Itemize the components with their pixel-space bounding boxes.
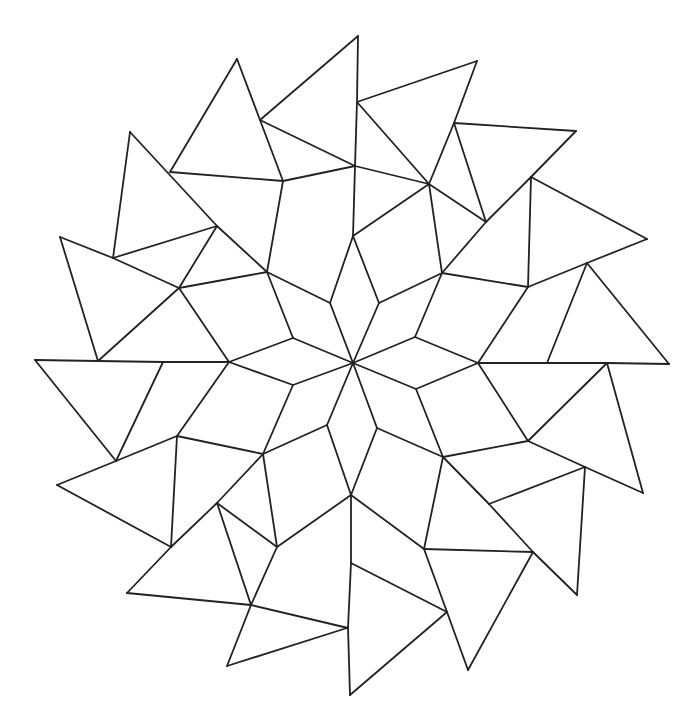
line-segment <box>429 123 454 184</box>
line-segment <box>353 363 416 389</box>
line-segment <box>454 61 477 123</box>
line-segment <box>478 287 528 363</box>
line-segment <box>229 338 293 362</box>
line-segment <box>60 237 113 258</box>
line-segment <box>177 436 263 454</box>
line-segment <box>283 166 355 181</box>
line-segment <box>348 563 351 628</box>
line-segment <box>454 123 486 222</box>
line-segment <box>416 363 478 389</box>
line-segment <box>113 258 179 288</box>
line-segment <box>217 503 251 605</box>
line-segment <box>217 454 263 503</box>
line-segment <box>227 605 251 666</box>
line-segment <box>177 362 229 436</box>
line-segment <box>489 504 533 552</box>
line-segment <box>379 273 442 303</box>
line-segment <box>35 360 116 461</box>
line-segment <box>227 628 347 666</box>
line-segment <box>489 467 585 504</box>
line-segment <box>237 59 260 120</box>
line-segment <box>327 425 351 495</box>
line-segment <box>353 184 429 236</box>
line-segment <box>587 263 669 364</box>
line-segment <box>424 457 443 549</box>
line-segment <box>170 59 237 172</box>
line-segment <box>60 237 98 361</box>
line-segment <box>585 467 643 493</box>
line-segment <box>429 184 486 222</box>
line-segment <box>179 288 229 362</box>
line-segment <box>528 441 585 467</box>
line-segment <box>267 181 283 272</box>
line-segment <box>130 132 217 226</box>
line-segment <box>353 236 379 303</box>
line-segment <box>263 385 293 454</box>
line-segment <box>98 288 179 361</box>
line-segment <box>351 428 377 495</box>
line-segment <box>217 503 277 547</box>
line-segment <box>353 166 355 236</box>
line-segment <box>478 363 528 441</box>
pinwheel-star-line-art <box>0 0 698 717</box>
line-segment <box>607 363 643 493</box>
line-segment <box>260 36 358 120</box>
line-segment <box>330 236 353 303</box>
line-segment <box>454 123 576 131</box>
drawing-canvas <box>0 0 698 717</box>
line-segment <box>251 605 348 628</box>
line-segment <box>531 131 576 177</box>
line-segment <box>113 226 217 258</box>
line-segment <box>468 552 533 670</box>
line-segment <box>251 547 277 605</box>
line-segment <box>443 441 528 457</box>
line-segment <box>263 425 327 454</box>
line-segment <box>127 593 251 605</box>
line-segment <box>447 612 468 670</box>
line-segment <box>528 363 607 441</box>
line-segment <box>533 552 577 595</box>
line-segment <box>415 337 478 363</box>
line-segment <box>350 612 447 695</box>
line-segment <box>355 166 429 184</box>
line-segment <box>547 263 587 363</box>
line-segment <box>277 495 351 547</box>
line-segment <box>486 177 531 222</box>
line-segment <box>357 61 477 102</box>
line-segment <box>171 503 217 547</box>
line-segment <box>35 360 98 361</box>
line-segment <box>170 172 283 181</box>
line-segment <box>327 363 353 425</box>
line-segment <box>57 485 171 547</box>
line-segment <box>429 184 442 273</box>
line-segment <box>179 272 267 288</box>
line-segment <box>351 495 424 549</box>
line-segment <box>531 177 647 239</box>
line-segment <box>577 467 585 595</box>
line-segment <box>98 361 163 362</box>
line-segment <box>348 628 350 695</box>
line-segment <box>217 226 267 272</box>
line-segment <box>127 547 171 593</box>
line-segment <box>424 549 533 552</box>
line-segment <box>229 362 293 385</box>
line-segment <box>587 239 647 263</box>
line-segment <box>442 222 486 273</box>
line-segment <box>442 273 528 287</box>
line-segment <box>263 454 277 547</box>
line-segment <box>443 457 489 504</box>
line-segment <box>113 132 130 258</box>
line-segment <box>357 102 429 184</box>
line-segment <box>293 363 353 385</box>
line-segment <box>528 177 531 287</box>
line-segment <box>357 36 358 102</box>
line-segment <box>171 436 177 547</box>
line-segment <box>355 102 357 166</box>
line-segment <box>415 273 442 337</box>
line-segment <box>116 362 163 461</box>
line-segment <box>353 363 377 428</box>
line-segment <box>57 461 116 485</box>
line-segment <box>607 363 669 364</box>
